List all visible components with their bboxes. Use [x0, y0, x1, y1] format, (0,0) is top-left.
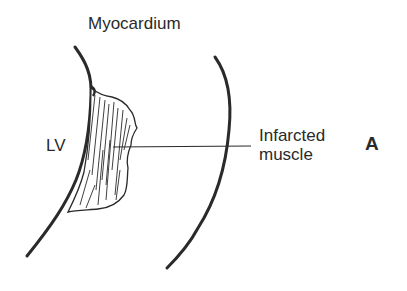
- panel-letter: A: [365, 134, 379, 153]
- leader-line: [113, 146, 251, 147]
- infarcted-label-line1: Infarcted: [259, 126, 325, 145]
- infarct-region: [68, 86, 137, 212]
- lv-label: LV: [46, 136, 66, 155]
- epicardial-wall: [167, 57, 230, 268]
- myocardium-label: Myocardium: [88, 14, 181, 33]
- infarcted-muscle-label: Infarcted muscle: [259, 126, 325, 164]
- infarcted-label-line2: muscle: [259, 145, 325, 164]
